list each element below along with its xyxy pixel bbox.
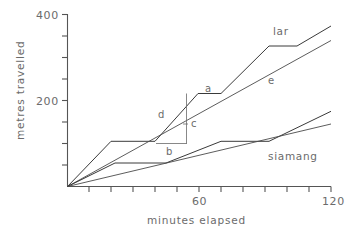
series-e-line (68, 41, 332, 187)
series-lar-stepped (68, 26, 332, 187)
chart-svg: 400 200 60 120 minutes elapsed metres tr… (0, 0, 355, 232)
x-axis-title: minutes elapsed (147, 214, 246, 226)
segment-label-b: b (166, 146, 173, 157)
chart-figure: 400 200 60 120 minutes elapsed metres tr… (0, 0, 355, 232)
y-axis-title: metres travelled (14, 41, 26, 140)
segment-label-a: a (205, 83, 212, 94)
series-siamang-stepped (68, 111, 332, 186)
series-label-siamang: siamang (268, 150, 318, 162)
y-tick-label-200: 200 (36, 95, 59, 108)
x-tick-label-120: 120 (322, 195, 345, 208)
segment-label-d: d (158, 109, 165, 120)
series-label-lar: lar (273, 25, 289, 37)
x-axis-ticks (89, 187, 331, 193)
y-axis-ticks (62, 15, 68, 166)
y-tick-label-400: 400 (36, 9, 59, 22)
segment-label-e: e (268, 75, 275, 86)
x-tick-label-60: 60 (192, 195, 207, 208)
segment-label-c: c (191, 118, 197, 129)
